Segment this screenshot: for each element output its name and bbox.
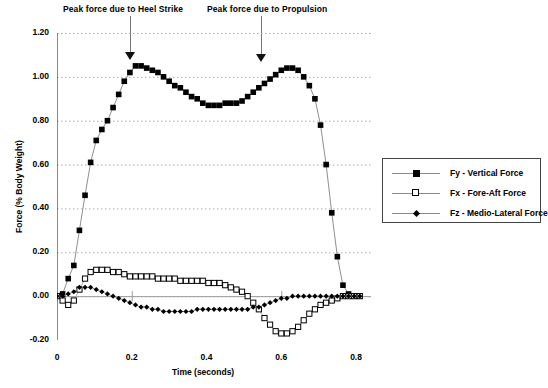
data-point <box>167 276 172 281</box>
data-point <box>88 160 94 166</box>
data-point <box>262 315 267 320</box>
data-point <box>127 70 133 76</box>
data-point <box>183 278 188 283</box>
data-point <box>195 278 200 283</box>
legend-item: Fx - Fore-Aft Force <box>392 188 526 198</box>
data-point <box>133 63 139 69</box>
data-point <box>295 67 301 73</box>
data-point <box>245 294 250 299</box>
data-point <box>228 307 233 312</box>
data-point <box>245 94 251 100</box>
data-point <box>222 100 228 106</box>
x-tick-label: 0.8 <box>331 352 381 362</box>
legend-label: Fx - Fore-Aft Force <box>450 188 526 198</box>
legend-marker-open-square <box>412 189 419 196</box>
data-point <box>279 331 284 336</box>
plot-canvas <box>57 33 371 340</box>
series-line <box>57 270 360 334</box>
data-point <box>88 269 93 274</box>
data-point <box>127 274 132 279</box>
data-point <box>217 103 223 109</box>
data-point <box>94 267 99 272</box>
legend-label: Fz - Medio-Lateral Force <box>450 208 548 218</box>
data-point <box>189 278 194 283</box>
plot-area <box>57 33 371 340</box>
data-point <box>65 276 71 282</box>
data-point <box>228 285 233 290</box>
data-point <box>172 83 178 89</box>
data-point <box>150 274 155 279</box>
data-point <box>296 324 301 329</box>
data-point <box>239 307 244 312</box>
data-point <box>234 287 239 292</box>
data-point <box>105 291 110 296</box>
data-point <box>340 282 346 288</box>
annotation-label-heel-strike: Peak force due to Heel Strike <box>63 4 183 14</box>
data-point <box>312 96 318 102</box>
legend-item: Fy - Vertical Force <box>392 168 523 178</box>
data-point <box>99 267 104 272</box>
y-tick-label: 0.60 <box>3 159 49 169</box>
data-point <box>262 81 268 87</box>
data-point <box>77 228 83 234</box>
data-point <box>127 300 132 305</box>
data-point <box>318 122 324 128</box>
data-point <box>94 287 99 292</box>
data-point <box>217 307 222 312</box>
data-point <box>296 294 301 299</box>
data-point <box>138 63 144 69</box>
data-point <box>318 294 323 299</box>
data-point <box>329 210 335 216</box>
data-point <box>211 280 216 285</box>
data-point <box>71 263 77 269</box>
y-tick-label: 1.20 <box>3 27 49 37</box>
legend-label: Fy - Vertical Force <box>450 168 523 178</box>
chart-legend: Fy - Vertical ForceFx - Fore-Aft ForceFz… <box>382 158 541 223</box>
data-point <box>290 65 296 71</box>
data-point <box>284 331 289 336</box>
data-point <box>206 280 211 285</box>
data-point <box>194 96 200 102</box>
data-point <box>256 85 262 91</box>
data-point <box>195 307 200 312</box>
data-point <box>335 254 341 260</box>
data-point <box>110 269 115 274</box>
data-point <box>144 65 150 71</box>
data-point <box>278 67 284 73</box>
data-point <box>139 274 144 279</box>
data-point <box>133 302 138 307</box>
data-point <box>200 307 205 312</box>
data-point <box>318 302 323 307</box>
series-1 <box>57 63 363 299</box>
data-point <box>217 280 222 285</box>
data-point <box>189 309 194 314</box>
data-point <box>99 127 105 133</box>
data-point <box>116 269 121 274</box>
y-tick-label: 0.80 <box>3 115 49 125</box>
data-point <box>88 285 93 290</box>
data-point <box>290 294 295 299</box>
data-point <box>200 278 205 283</box>
data-point <box>267 300 272 305</box>
data-point <box>312 307 317 312</box>
legend-marker-filled-square <box>413 170 420 177</box>
data-point <box>178 85 184 91</box>
data-point <box>183 89 189 95</box>
data-point <box>312 294 317 299</box>
data-point <box>307 311 312 316</box>
y-tick-label: 0.00 <box>3 290 49 300</box>
data-point <box>239 98 245 104</box>
legend-sample-line <box>392 173 440 174</box>
data-point <box>110 294 115 299</box>
x-axis-title: Time (seconds) <box>172 367 234 377</box>
data-point <box>155 276 160 281</box>
data-point <box>301 294 306 299</box>
data-point <box>307 294 312 299</box>
data-point <box>139 305 144 310</box>
data-point <box>323 162 329 168</box>
data-point <box>99 289 104 294</box>
data-point <box>273 298 278 303</box>
data-point <box>206 307 211 312</box>
data-point <box>71 298 76 303</box>
